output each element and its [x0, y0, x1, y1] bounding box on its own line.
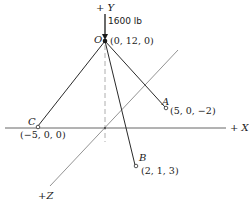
- member-OB: [105, 41, 135, 165]
- load-label: 1600 lb: [108, 16, 142, 26]
- point-O-label: O: [94, 34, 102, 45]
- point-B-coords: (2, 1, 3): [141, 165, 179, 176]
- point-B-label: B: [138, 152, 146, 163]
- member-OC: [38, 41, 105, 126]
- origin-dot: [104, 127, 106, 129]
- point-B: [134, 164, 138, 168]
- point-C-label: C: [28, 116, 36, 127]
- tripod-diagram: + Y 1600 lb O (0, 12, 0) A (5, 0, −2) C …: [0, 0, 249, 212]
- point-C-coords: (−5, 0, 0): [20, 129, 66, 140]
- point-O-coords: (0, 12, 0): [110, 35, 154, 46]
- x-axis-label: + X: [230, 122, 249, 133]
- z-axis-label: +Z: [38, 190, 54, 201]
- member-OA: [105, 41, 165, 107]
- y-axis-label: + Y: [96, 2, 116, 13]
- point-A-coords: (5, 0, −2): [170, 105, 216, 116]
- point-O: [103, 39, 108, 44]
- point-A-label: A: [161, 96, 169, 107]
